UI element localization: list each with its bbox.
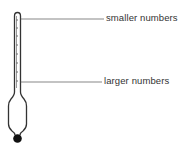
hydrometer-weight <box>13 134 22 143</box>
label-larger-numbers: larger numbers <box>104 75 169 86</box>
hydrometer-outline <box>9 13 27 136</box>
label-smaller-numbers: smaller numbers <box>106 12 178 23</box>
